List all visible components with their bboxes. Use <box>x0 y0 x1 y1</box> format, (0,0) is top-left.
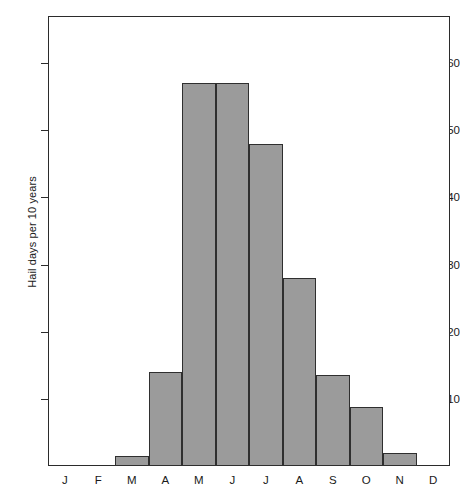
bar-march <box>115 456 149 466</box>
bar-july <box>249 144 283 466</box>
bar-june <box>216 83 250 466</box>
x-tick-label-september: S <box>316 474 350 486</box>
x-tick-label-august: A <box>282 474 316 486</box>
bar-august <box>283 278 317 466</box>
bar-october <box>350 407 384 466</box>
x-tick-label-november: N <box>383 474 417 486</box>
x-tick-label-may: M <box>182 474 216 486</box>
y-axis-title: Hail days per 10 years <box>26 137 38 327</box>
x-tick-label-december: D <box>416 474 450 486</box>
x-tick-label-october: O <box>349 474 383 486</box>
x-tick-label-january: J <box>48 474 82 486</box>
hail-days-bar-chart: Hail days per 10 years 102030405060 JFMA… <box>0 0 460 502</box>
x-tick-label-july: J <box>249 474 283 486</box>
x-tick-label-march: M <box>115 474 149 486</box>
x-tick-label-june: J <box>215 474 249 486</box>
bar-november <box>383 453 417 466</box>
x-tick-label-april: A <box>148 474 182 486</box>
bar-september <box>316 375 350 466</box>
bar-april <box>149 372 183 466</box>
bars-layer <box>48 16 450 466</box>
bar-may <box>182 83 216 466</box>
x-tick-label-february: F <box>81 474 115 486</box>
